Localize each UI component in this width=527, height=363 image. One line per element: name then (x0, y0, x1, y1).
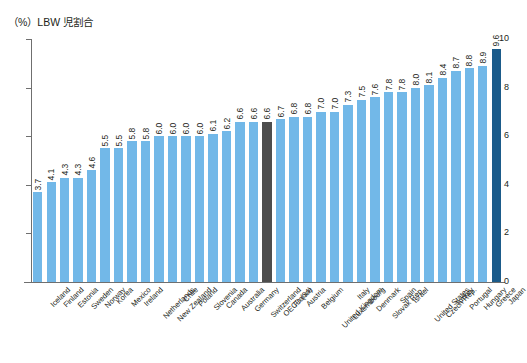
bar[interactable] (411, 88, 420, 282)
bar-value-label: 6.2 (222, 118, 231, 130)
bar-column[interactable]: 8.4 (438, 39, 447, 282)
bar[interactable] (87, 170, 96, 282)
bar-column[interactable]: 3.7 (33, 39, 42, 282)
bar[interactable] (208, 134, 217, 282)
bar-column[interactable]: 6.2 (222, 39, 231, 282)
bar-value-label: 8.7 (451, 57, 460, 69)
x-axis-baseline (24, 282, 505, 283)
bar[interactable] (492, 49, 501, 282)
bar[interactable] (181, 136, 190, 282)
bar-column[interactable]: 5.5 (100, 39, 109, 282)
bar[interactable] (465, 68, 474, 282)
bar[interactable] (357, 100, 366, 282)
bar-value-label: 7.5 (357, 86, 366, 98)
bar-value-label: 8.8 (465, 54, 474, 66)
bar-value-label: 8.1 (425, 71, 434, 83)
bar-column[interactable]: 7.5 (357, 39, 366, 282)
bar-value-label: 7.0 (317, 98, 326, 110)
bar[interactable] (330, 112, 339, 282)
bar-value-label: 6.0 (168, 122, 177, 134)
bar-column[interactable]: 4.1 (47, 39, 56, 282)
bar-column[interactable]: 5.8 (141, 39, 150, 282)
bar-value-label: 4.6 (87, 156, 96, 168)
bar[interactable] (33, 192, 42, 282)
bar-column[interactable]: 6.6 (262, 39, 271, 282)
bar[interactable] (424, 85, 433, 282)
bar-column[interactable]: 9.6 (492, 39, 501, 282)
bar-column[interactable]: 6.7 (276, 39, 285, 282)
bar-column[interactable]: 5.5 (114, 39, 123, 282)
bar-column[interactable]: 7.8 (384, 39, 393, 282)
bar[interactable] (451, 71, 460, 282)
bar-value-label: 7.8 (384, 79, 393, 91)
bar[interactable] (289, 117, 298, 282)
bar-column[interactable]: 6.6 (249, 39, 258, 282)
bar-column[interactable]: 7.8 (397, 39, 406, 282)
bar-column[interactable]: 7.6 (370, 39, 379, 282)
bar[interactable] (384, 92, 393, 282)
bar-column[interactable]: 7.0 (330, 39, 339, 282)
bar[interactable] (141, 141, 150, 282)
bar-column[interactable]: 6.0 (195, 39, 204, 282)
bar[interactable] (397, 92, 406, 282)
bar-column[interactable]: 8.7 (451, 39, 460, 282)
bar-column[interactable]: 4.3 (60, 39, 69, 282)
bar-value-label: 6.6 (263, 108, 272, 120)
bar[interactable] (168, 136, 177, 282)
bar-value-label: 6.0 (195, 122, 204, 134)
bar[interactable] (438, 78, 447, 282)
bar-value-label: 4.1 (47, 169, 56, 181)
bar[interactable] (222, 131, 231, 282)
bar-value-label: 7.6 (371, 84, 380, 96)
bar-value-label: 4.3 (74, 164, 83, 176)
bar[interactable] (316, 112, 325, 282)
bar-column[interactable]: 4.6 (87, 39, 96, 282)
bar-column[interactable]: 8.0 (411, 39, 420, 282)
bar-column[interactable]: 6.8 (289, 39, 298, 282)
bar-column[interactable]: 7.3 (343, 39, 352, 282)
bar-value-label: 6.8 (303, 103, 312, 115)
bar-column[interactable]: 6.1 (208, 39, 217, 282)
bar[interactable] (249, 122, 258, 282)
bar[interactable] (276, 119, 285, 282)
bar-value-label: 6.7 (276, 105, 285, 117)
bar-column[interactable]: 6.8 (303, 39, 312, 282)
bar-value-label: 6.6 (236, 108, 245, 120)
bar-column[interactable]: 6.0 (181, 39, 190, 282)
bar-value-label: 8.0 (411, 74, 420, 86)
bar-value-label: 6.0 (182, 122, 191, 134)
bar[interactable] (303, 117, 312, 282)
bar-column[interactable]: 6.0 (154, 39, 163, 282)
bar-value-label: 5.5 (114, 135, 123, 147)
bar[interactable] (100, 148, 109, 282)
bar-column[interactable]: 8.1 (424, 39, 433, 282)
bar-column[interactable]: 7.0 (316, 39, 325, 282)
bar-column[interactable]: 6.0 (168, 39, 177, 282)
bar[interactable] (370, 97, 379, 282)
bar[interactable] (60, 178, 69, 282)
bar[interactable] (262, 122, 271, 282)
bar[interactable] (114, 148, 123, 282)
y-axis-tick-mark (26, 282, 31, 283)
bar[interactable] (343, 105, 352, 282)
chart-title: （%）LBW 児割合 (8, 14, 93, 29)
bar-value-label: 6.0 (155, 122, 164, 134)
bar-value-label: 8.4 (438, 64, 447, 76)
bar[interactable] (127, 141, 136, 282)
bar-column[interactable]: 4.3 (73, 39, 82, 282)
bar[interactable] (73, 178, 82, 282)
bar-column[interactable]: 5.8 (127, 39, 136, 282)
bar-value-label: 5.8 (128, 127, 137, 139)
bar-value-label: 5.8 (141, 127, 150, 139)
bar-column[interactable]: 8.8 (465, 39, 474, 282)
bar-value-label: 4.3 (60, 164, 69, 176)
bar-column[interactable]: 6.6 (235, 39, 244, 282)
bar[interactable] (47, 182, 56, 282)
bar[interactable] (154, 136, 163, 282)
plot-area: 3.74.14.34.34.65.55.55.85.86.06.06.06.06… (31, 39, 503, 282)
bar[interactable] (195, 136, 204, 282)
bar[interactable] (235, 122, 244, 282)
bar[interactable] (478, 66, 487, 282)
bar-column[interactable]: 8.9 (478, 39, 487, 282)
